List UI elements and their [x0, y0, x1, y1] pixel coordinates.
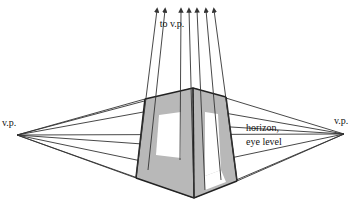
left-window [156, 112, 181, 158]
right-face [193, 88, 237, 198]
top-vp-label: to v.p. [160, 18, 185, 29]
horizon-label: horizon, [246, 122, 279, 133]
eye-level-label: eye level [246, 136, 282, 147]
perspective-diagram: to v.p. v.p. v.p. horizon, eye level [0, 0, 360, 205]
right-vp-label: v.p. [334, 115, 348, 126]
left-vp-label: v.p. [2, 117, 16, 128]
